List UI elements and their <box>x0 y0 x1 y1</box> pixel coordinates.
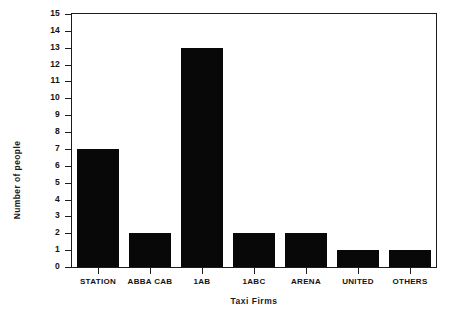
y-axis-tick-label: 8 <box>55 126 60 137</box>
x-axis-tick-label: 1ABC <box>243 277 266 286</box>
y-axis-tick-mark <box>65 166 71 167</box>
y-axis-tick-label: 6 <box>55 160 60 171</box>
y-axis-tick-label: 3 <box>55 210 60 221</box>
y-axis-tick-mark <box>65 132 71 133</box>
y-axis-tick-label: 9 <box>55 109 60 120</box>
y-axis-tick-label: 11 <box>51 75 60 86</box>
y-axis-tick-mark <box>65 14 71 15</box>
x-axis-tick-mark <box>254 268 255 274</box>
y-axis-tick-mark <box>65 65 71 66</box>
y-axis-tick-label: 2 <box>55 227 60 238</box>
bar <box>337 250 378 267</box>
x-axis-tick-label: UNITED <box>342 277 374 286</box>
bar <box>129 233 170 267</box>
bar <box>77 149 118 267</box>
x-axis-tick-mark <box>410 268 411 274</box>
x-axis-tick-mark <box>98 268 99 274</box>
y-axis-tick-mark <box>65 216 71 217</box>
y-axis-tick-label: 13 <box>50 42 60 53</box>
x-axis-tick-label: OTHERS <box>392 277 427 286</box>
y-axis-tick-label: 7 <box>55 143 60 154</box>
y-axis-tick-label: 10 <box>50 92 60 103</box>
y-axis-title: Number of people <box>0 0 34 324</box>
y-axis-tick-mark <box>65 183 71 184</box>
y-axis-tick-label: 5 <box>55 177 60 188</box>
y-axis-tick-label: 1 <box>55 244 60 255</box>
y-axis-tick-mark <box>65 31 71 32</box>
x-axis-tick-mark <box>358 268 359 274</box>
bar <box>389 250 430 267</box>
bars-layer <box>72 14 436 267</box>
y-axis-tick-mark <box>65 81 71 82</box>
x-axis-tick-mark <box>202 268 203 274</box>
x-axis-tick-label: 1AB <box>194 277 211 286</box>
y-axis-tick-label: 12 <box>50 59 60 70</box>
x-axis-title: Taxi Firms <box>71 296 437 306</box>
x-axis-tick-mark <box>306 268 307 274</box>
y-axis-tick-label: 14 <box>50 25 60 36</box>
y-axis-tick-label: 4 <box>55 194 60 205</box>
y-axis-tick-mark <box>65 48 71 49</box>
y-axis-tick-mark <box>65 233 71 234</box>
bar <box>285 233 326 267</box>
x-axis-tick-label: STATION <box>80 277 116 286</box>
x-axis-tick-label: ABBA CAB <box>128 277 173 286</box>
y-axis-tick-mark <box>65 250 71 251</box>
y-axis-tick-mark <box>65 115 71 116</box>
y-axis-tick-label: 15 <box>50 8 60 19</box>
y-axis-tick-mark <box>65 149 71 150</box>
bar <box>233 233 274 267</box>
y-axis-tick-label: 0 <box>55 261 60 272</box>
x-axis-tick-mark <box>150 268 151 274</box>
bar-chart: Number of people 0123456789101112131415 … <box>0 0 453 324</box>
y-axis-tick-mark <box>65 98 71 99</box>
bar <box>181 48 222 267</box>
y-axis-tick-mark <box>65 200 71 201</box>
x-axis-tick-label: ARENA <box>291 277 321 286</box>
y-axis-tick-mark <box>65 267 71 268</box>
